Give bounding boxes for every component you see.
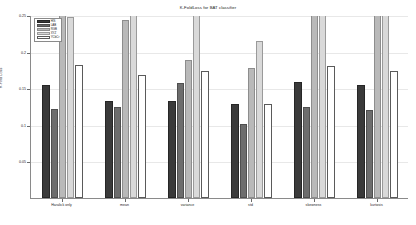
bar xyxy=(311,16,318,198)
plot-area xyxy=(30,16,408,199)
x-tick-mark xyxy=(314,199,315,202)
bar xyxy=(177,83,184,198)
x-tick-label: mean xyxy=(120,203,129,207)
y-tick-label: 0.15 xyxy=(4,87,26,91)
bar xyxy=(122,20,129,198)
bar xyxy=(114,107,121,198)
legend-swatch xyxy=(37,20,50,23)
bar xyxy=(201,71,208,198)
bar xyxy=(138,75,145,198)
bar xyxy=(256,41,263,198)
bar xyxy=(240,124,247,198)
bar-group xyxy=(31,16,94,198)
y-tick-label: 0.25 xyxy=(4,14,26,18)
bar xyxy=(42,85,49,198)
bar xyxy=(382,16,389,198)
chart-legend: HISLABRGBXYZYCbCr xyxy=(34,18,62,42)
x-tick-mark xyxy=(62,199,63,202)
y-tick-label: 0.1 xyxy=(4,124,26,128)
y-tick-label: 0.05 xyxy=(4,160,26,164)
bar-group xyxy=(157,16,220,198)
bar-group xyxy=(346,16,408,198)
bar xyxy=(185,60,192,198)
bar xyxy=(303,107,310,198)
legend-swatch xyxy=(37,24,50,27)
bar xyxy=(327,66,334,198)
x-tick-mark xyxy=(377,199,378,202)
chart-title: K-FoldLoss for BAT classifier xyxy=(0,5,416,10)
legend-swatch xyxy=(37,32,50,35)
y-tick-label: 0.2 xyxy=(4,51,26,55)
bar xyxy=(357,85,364,198)
bar xyxy=(75,65,82,198)
bar xyxy=(193,16,200,198)
y-axis-title: K-Fold Loss xyxy=(0,68,3,88)
x-tick-label: skewness xyxy=(306,203,322,207)
bar xyxy=(366,110,373,198)
legend-swatch xyxy=(37,36,50,39)
bar xyxy=(231,104,238,198)
legend-label: YCbCr xyxy=(51,36,60,39)
bar xyxy=(130,16,137,198)
bar xyxy=(51,109,58,198)
bar xyxy=(59,16,66,198)
bar xyxy=(248,68,255,198)
bar xyxy=(319,16,326,198)
x-tick-label: kurtosis xyxy=(370,203,382,207)
x-tick-label: variance xyxy=(181,203,195,207)
bar xyxy=(67,17,74,198)
x-tick-mark xyxy=(251,199,252,202)
bar xyxy=(264,104,271,198)
bar xyxy=(294,82,301,198)
bar xyxy=(105,101,112,198)
bar xyxy=(390,71,397,198)
bar-group xyxy=(94,16,157,198)
bar xyxy=(374,16,381,198)
x-tick-mark xyxy=(125,199,126,202)
x-tick-label: Haralick only xyxy=(51,203,72,207)
legend-item[interactable]: YCbCr xyxy=(37,36,60,39)
legend-swatch xyxy=(37,28,50,31)
bar-group xyxy=(283,16,346,198)
chart-figure: K-FoldLoss for BAT classifier K-Fold Los… xyxy=(0,0,416,225)
bar-group xyxy=(220,16,283,198)
x-tick-label: std xyxy=(248,203,253,207)
bar xyxy=(168,101,175,198)
x-tick-mark xyxy=(188,199,189,202)
